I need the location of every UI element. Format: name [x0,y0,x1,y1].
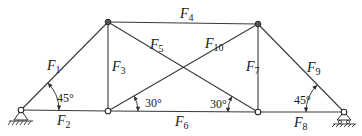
label-f6: F6 [174,114,189,131]
arrowhead-icon [57,106,61,111]
member-f6 [108,111,258,112]
arrowhead-icon [304,108,308,112]
angle-label-30-left: 30° [145,96,162,110]
label-f10: F10 [204,36,224,53]
truss-diagram: F1 F2 F3 F4 F5 F6 F7 F8 F9 F10 45° 30° 3… [0,0,362,136]
angle-arcs [48,83,317,112]
label-f9: F9 [306,60,321,77]
label-f2: F2 [56,113,71,130]
angle-labels: 45° 30° 30° 45° [57,91,311,111]
member-labels: F1 F2 F3 F4 F5 F6 F7 F8 F9 F10 [46,6,321,132]
label-f4: F4 [179,6,194,23]
arrowhead-icon [312,85,317,90]
label-f3: F3 [111,59,126,76]
node-g [341,109,347,115]
node-d [105,108,111,114]
angle-label-45-right: 45° [294,93,311,107]
node-b [105,19,111,25]
member-f4 [108,22,258,24]
label-f5: F5 [149,37,164,54]
node-e [255,109,261,115]
node-c [255,21,261,27]
label-f8: F8 [293,115,308,132]
truss-svg: F1 F2 F3 F4 F5 F6 F7 F8 F9 F10 45° 30° 3… [0,0,362,136]
arrowhead-icon [136,107,140,111]
label-f1: F1 [46,58,61,75]
angle-label-30-right: 30° [210,97,227,111]
member-f2 [21,110,108,111]
node-a [18,107,24,113]
label-f7: F7 [245,59,260,76]
angle-label-45-left: 45° [57,91,74,105]
